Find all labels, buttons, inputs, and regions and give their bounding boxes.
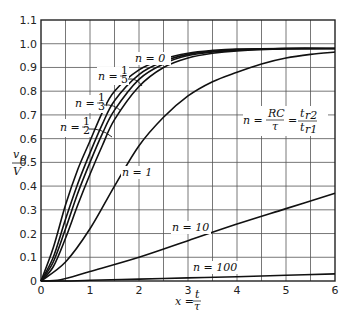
- y-tick-label: 0.8: [20, 85, 38, 98]
- rc-response-chart: 00.10.20.30.40.50.60.70.80.91.01.1 01234…: [0, 0, 347, 324]
- y-tick-label: 1.0: [20, 38, 38, 51]
- svg-text:n =: n =: [75, 97, 95, 110]
- svg-text:n =: n =: [98, 70, 118, 83]
- svg-text:o: o: [20, 151, 27, 164]
- x-tick-label: 5: [283, 284, 290, 297]
- svg-text:n = 0: n = 0: [135, 52, 165, 65]
- x-tick-label: 1: [87, 284, 94, 297]
- series-label-n10: n = 10: [171, 221, 211, 234]
- svg-text:2: 2: [83, 124, 90, 137]
- y-axis-label: v o V: [12, 148, 27, 178]
- y-tick-label: 0.1: [20, 251, 38, 264]
- y-tick-label: 0.6: [20, 133, 38, 146]
- y-tick-label: 0.4: [20, 180, 38, 193]
- y-tick-label: 0: [30, 275, 37, 288]
- series-label-n1: n = 1: [121, 166, 153, 179]
- svg-text:n =: n =: [243, 114, 263, 127]
- svg-text:n = 1: n = 1: [122, 166, 152, 179]
- svg-text:r1: r1: [305, 123, 317, 136]
- svg-text:n = 100: n = 100: [193, 261, 237, 274]
- svg-text:v: v: [13, 148, 20, 161]
- svg-text:x =: x =: [175, 295, 194, 308]
- x-tick-label: 2: [136, 284, 143, 297]
- y-tick-label: 0.7: [20, 109, 38, 122]
- svg-text:τ: τ: [272, 120, 279, 133]
- svg-text:n =: n =: [60, 121, 80, 134]
- svg-text:V: V: [13, 165, 22, 178]
- y-tick-label: 1.1: [20, 14, 38, 27]
- x-tick-label: 4: [234, 284, 241, 297]
- y-tick-label: 0.2: [20, 228, 38, 241]
- series-label-n0: n = 0: [133, 52, 171, 65]
- x-tick-label: 6: [332, 284, 339, 297]
- svg-text:RC: RC: [267, 107, 285, 120]
- formula-annotation: n = RC τ = t r2 t r1: [243, 106, 328, 136]
- series-label-n100: n = 100: [192, 261, 238, 274]
- svg-text:r2: r2: [305, 109, 317, 122]
- y-tick-label: 0.3: [20, 204, 38, 217]
- series-label-n-one-half: n = 1 2: [59, 115, 112, 137]
- svg-text:3: 3: [98, 100, 105, 113]
- svg-text:n = 10: n = 10: [172, 221, 209, 234]
- svg-text:=: =: [288, 114, 297, 127]
- svg-text:5: 5: [121, 73, 128, 86]
- x-tick-label: 0: [38, 284, 45, 297]
- svg-text:τ: τ: [194, 300, 201, 313]
- y-tick-label: 0.9: [20, 61, 38, 74]
